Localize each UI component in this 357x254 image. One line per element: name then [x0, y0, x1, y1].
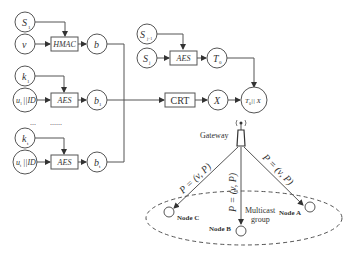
output-bt-node: b t [87, 152, 107, 172]
svg-text:v: v [22, 39, 27, 50]
multicast-label-line2: group [251, 215, 270, 224]
node-a: Node A [279, 202, 315, 217]
svg-text:|| X: || X [251, 97, 262, 105]
svg-text:AES: AES [57, 158, 72, 167]
multicast-group-ellipse [146, 191, 342, 245]
edge-label-b: P = (v, P) [227, 172, 239, 213]
edge-s1-hmac [35, 22, 65, 36]
node-c: Node C [164, 207, 199, 222]
edge-label-a: P = (v, P) [259, 151, 296, 188]
input-v-node: v [15, 34, 35, 54]
svg-text:j−1: j−1 [146, 36, 152, 41]
diagram-canvas: S 1 v HMAC b k 1 u 1 ||ID AES b 1 [0, 0, 357, 254]
input-s1-node: S 1 [15, 12, 35, 32]
svg-text:Node A: Node A [279, 209, 301, 217]
edge-label-c: P = (v, P) [176, 160, 214, 197]
svg-text:||ID: ||ID [23, 96, 36, 105]
hmac-box: HMAC [51, 37, 78, 51]
aes-box-1: AES [51, 93, 78, 107]
edge-t0-final [227, 58, 254, 87]
final-t0-x-node: T 0 || X [241, 87, 267, 113]
svg-text:X: X [213, 95, 221, 106]
svg-text:b: b [94, 39, 99, 50]
input-u1id-node: u 1 ||ID [13, 88, 37, 112]
multicast-label-line1: Multicast [245, 206, 276, 215]
edge-b-bus [107, 44, 124, 100]
ellipsis-right: ...... [50, 118, 62, 127]
node-b: Node B [209, 225, 246, 236]
output-b-node: b [87, 34, 107, 54]
output-b1-node: b 1 [87, 90, 107, 110]
edge-k1-aes [35, 76, 64, 92]
svg-text:HMAC: HMAC [52, 40, 76, 49]
svg-text:S: S [140, 29, 145, 40]
svg-text:Node C: Node C [177, 214, 199, 222]
gateway-antenna-icon [236, 120, 246, 146]
svg-text:S: S [143, 53, 148, 64]
svg-text:AES: AES [176, 54, 191, 63]
svg-text:||ID: ||ID [23, 158, 36, 167]
gateway-label: Gateway [200, 131, 228, 140]
crt-box: CRT [165, 93, 195, 107]
ellipsis-left: ... [30, 118, 36, 127]
input-sj1-node: S j−1 [137, 24, 157, 44]
svg-text:AES: AES [57, 96, 72, 105]
svg-text:S: S [22, 17, 27, 28]
input-k1-node: k 1 [15, 66, 35, 86]
output-x-node: X [208, 90, 228, 110]
aes-box-top: AES [170, 51, 197, 65]
edge-bt-bus [107, 100, 124, 162]
svg-text:Node B: Node B [209, 225, 231, 233]
output-t0-node: T 0 [207, 48, 227, 68]
input-utid-node: u t ||ID [13, 150, 37, 174]
svg-text:j: j [148, 60, 150, 65]
edge-kt-aes [35, 138, 64, 154]
svg-text:1: 1 [20, 101, 22, 106]
aes-box-t: AES [51, 155, 78, 169]
edge-sj1-aes [157, 34, 183, 49]
svg-text:CRT: CRT [171, 95, 190, 106]
input-sj-node: S j [137, 48, 157, 68]
input-kt-node: k t [15, 128, 35, 148]
